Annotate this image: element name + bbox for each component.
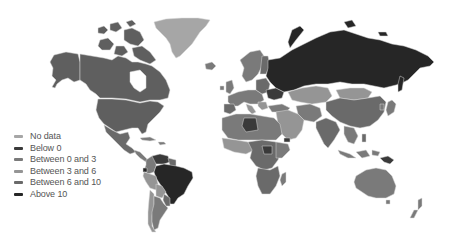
legend-item-6-10: Between 6 and 10 xyxy=(14,177,101,188)
region-alaska[interactable] xyxy=(50,52,80,88)
legend-swatch xyxy=(14,170,23,173)
region-south-sudan[interactable] xyxy=(262,146,272,154)
world-map xyxy=(0,0,452,239)
region-tasmania[interactable] xyxy=(386,200,390,204)
legend-label: Between 3 and 6 xyxy=(30,166,96,177)
legend-item-above-10: Above 10 xyxy=(14,189,101,200)
region-philippines[interactable] xyxy=(362,134,366,142)
region-papua-new-guinea[interactable] xyxy=(380,156,394,164)
region-caribbean[interactable] xyxy=(140,137,166,145)
legend-label: Above 10 xyxy=(30,189,67,200)
region-east-africa[interactable] xyxy=(276,142,290,158)
legend-item-3-6: Between 3 and 6 xyxy=(14,166,101,177)
legend-item-below-0: Below 0 xyxy=(14,143,101,154)
region-greenland[interactable] xyxy=(154,18,210,58)
region-iberia[interactable] xyxy=(224,104,236,114)
legend-swatch xyxy=(14,181,23,184)
region-united-kingdom[interactable] xyxy=(220,80,234,94)
map-legend: No data Below 0 Between 0 and 3 Between … xyxy=(14,131,101,201)
region-madagascar[interactable] xyxy=(280,172,286,186)
region-canada[interactable] xyxy=(80,54,170,102)
region-novaya-zemlya[interactable] xyxy=(288,26,304,48)
legend-swatch xyxy=(14,158,23,161)
region-scandinavia[interactable] xyxy=(240,50,264,82)
region-indonesia[interactable] xyxy=(338,150,380,158)
region-southeast-asia[interactable] xyxy=(344,126,358,144)
region-new-zealand[interactable] xyxy=(410,198,422,218)
legend-swatch xyxy=(14,193,23,196)
legend-item-0-3: Between 0 and 3 xyxy=(14,154,101,165)
region-southern-africa[interactable] xyxy=(256,166,280,194)
legend-swatch xyxy=(14,147,23,150)
legend-label: Between 0 and 3 xyxy=(30,154,96,165)
legend-label: No data xyxy=(30,131,61,142)
legend-label: Below 0 xyxy=(30,143,61,154)
region-india[interactable] xyxy=(316,118,340,148)
region-west-africa[interactable] xyxy=(222,138,254,154)
legend-swatch xyxy=(14,135,23,138)
region-yemen[interactable] xyxy=(284,138,290,142)
region-australia[interactable] xyxy=(354,168,396,198)
legend-item-no-data: No data xyxy=(14,131,101,142)
region-canada-arctic[interactable] xyxy=(98,20,156,64)
region-ecuador[interactable] xyxy=(143,168,147,172)
legend-label: Between 6 and 10 xyxy=(30,177,101,188)
region-iceland[interactable] xyxy=(205,62,216,70)
region-libya[interactable] xyxy=(242,118,258,132)
